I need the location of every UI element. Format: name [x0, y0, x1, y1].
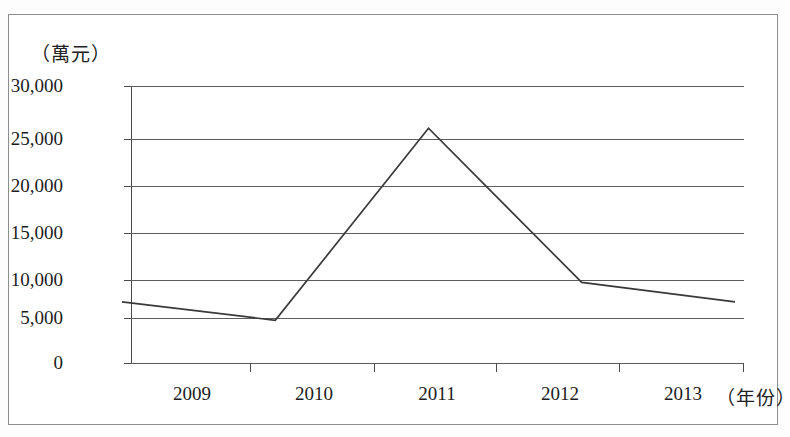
gridline-10000: [131, 280, 744, 281]
y-tick-label-20000: 20,000: [11, 175, 63, 197]
chart-figure: （萬元） 30,000 25,000 20,000 15,000 10,000 …: [0, 0, 790, 437]
y-tick-label-5000: 5,000: [20, 307, 63, 329]
gridline-20000: [131, 186, 744, 187]
y-tick-label-10000: 10,000: [11, 269, 63, 291]
x-tick-mark-5: [743, 363, 744, 372]
plot-area: 30,000 25,000 20,000 15,000 10,000 5,000…: [131, 86, 744, 363]
gridline-5000: [131, 318, 744, 319]
y-tick-mark-15000: [124, 233, 131, 234]
x-tick-label-2009: 2009: [173, 383, 211, 405]
y-axis-unit-label: （萬元）: [31, 39, 111, 66]
x-tick-mark-1: [250, 363, 251, 372]
y-tick-label-30000: 30,000: [11, 75, 63, 97]
x-tick-label-2010: 2010: [295, 383, 333, 405]
x-tick-mark-4: [619, 363, 620, 372]
y-tick-label-25000: 25,000: [11, 128, 63, 150]
y-tick-label-0: 0: [54, 352, 64, 374]
gridline-25000: [131, 139, 744, 140]
x-tick-label-2013: 2013: [664, 383, 702, 405]
x-axis-unit-label: （年份）: [716, 383, 790, 410]
x-tick-label-2011: 2011: [418, 383, 455, 405]
x-tick-mark-3: [496, 363, 497, 372]
x-tick-label-2012: 2012: [541, 383, 579, 405]
y-tick-mark-30000: [124, 86, 131, 87]
x-tick-mark-2: [374, 363, 375, 372]
y-tick-mark-25000: [124, 139, 131, 140]
y-tick-mark-20000: [124, 186, 131, 187]
y-tick-label-15000: 15,000: [11, 222, 63, 244]
y-tick-mark-10000: [124, 280, 131, 281]
figure-border-frame: （萬元） 30,000 25,000 20,000 15,000 10,000 …: [8, 14, 778, 425]
gridline-30000: [131, 86, 744, 87]
y-tick-mark-5000: [124, 318, 131, 319]
gridline-15000: [131, 233, 744, 234]
x-axis-line: [131, 363, 744, 364]
y-tick-mark-0: [124, 363, 131, 364]
